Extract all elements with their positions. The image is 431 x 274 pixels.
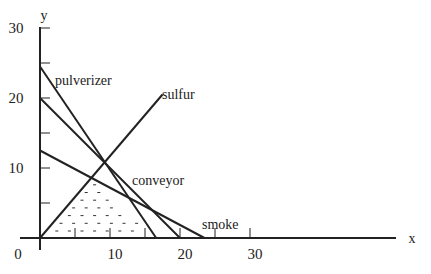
x-axis-label: x [409, 231, 416, 246]
feasible-region-chart: y x 0 10 20 30 10 20 30 pulverizer sulfu… [0, 0, 431, 274]
y-tick-10: 10 [9, 160, 24, 176]
origin-label: 0 [14, 246, 22, 262]
smoke-label: smoke [202, 217, 239, 232]
y-tick-30: 30 [9, 20, 24, 36]
sulfur-label: sulfur [162, 87, 195, 102]
x-tick-30: 30 [248, 246, 263, 262]
chart-svg: y x 0 10 20 30 10 20 30 pulverizer sulfu… [0, 0, 431, 274]
y-tick-20: 20 [9, 90, 24, 106]
pulverizer-label: pulverizer [55, 73, 112, 88]
smoke-line [40, 151, 205, 239]
y-axis-label: y [41, 8, 48, 23]
x-tick-10: 10 [108, 246, 123, 262]
conveyor-line [40, 98, 180, 238]
x-tick-20: 20 [178, 246, 193, 262]
pulverizer-line [40, 67, 156, 239]
conveyor-label: conveyor [132, 173, 184, 188]
